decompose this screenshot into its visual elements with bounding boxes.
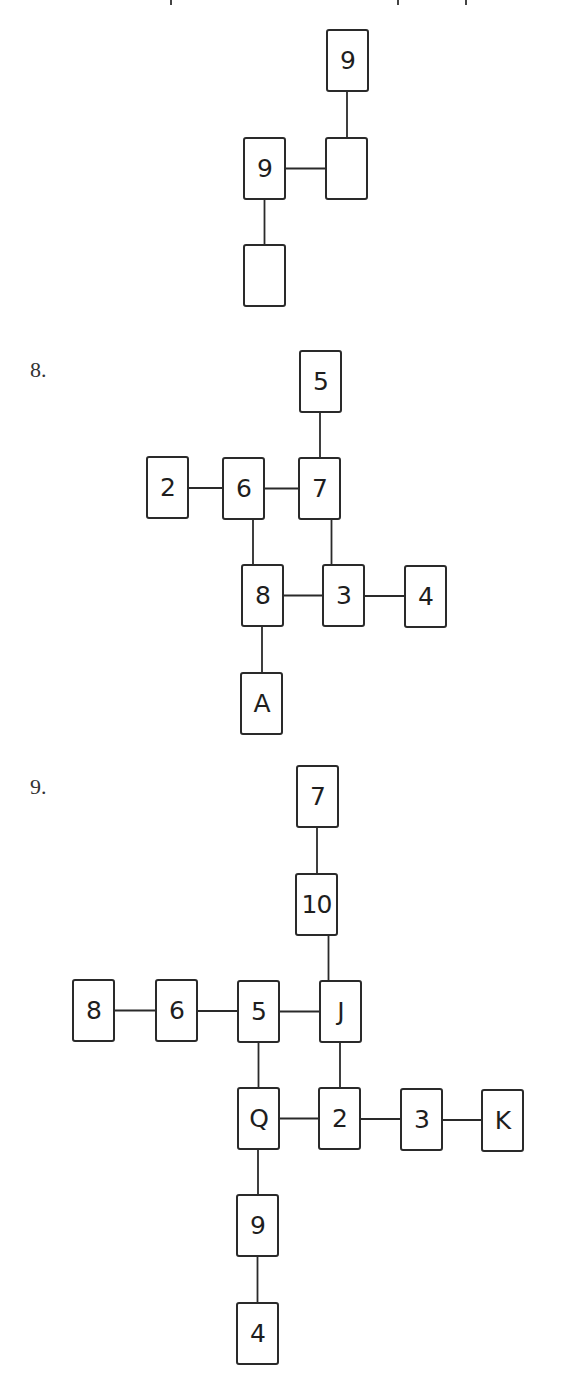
card-2: 2 bbox=[146, 456, 189, 519]
card-blank bbox=[325, 137, 368, 200]
card-value: 4 bbox=[418, 582, 433, 611]
card-5: 5 bbox=[237, 980, 280, 1043]
card-2: 2 bbox=[318, 1087, 361, 1150]
card-value: 5 bbox=[251, 997, 266, 1026]
card-10: 10 bbox=[295, 873, 338, 936]
card-j: J bbox=[319, 980, 362, 1043]
question-number: 8. bbox=[30, 357, 47, 383]
card-8: 8 bbox=[72, 979, 115, 1042]
card-a: A bbox=[240, 672, 283, 735]
card-6: 6 bbox=[222, 457, 265, 520]
card-value: 9 bbox=[250, 1211, 265, 1240]
card-6: 6 bbox=[155, 979, 198, 1042]
card-4: 4 bbox=[236, 1302, 279, 1365]
card-value: 2 bbox=[160, 473, 175, 502]
card-value: 9 bbox=[257, 154, 272, 183]
card-value: 3 bbox=[414, 1105, 429, 1134]
question-number: 9. bbox=[30, 774, 47, 800]
card-k: K bbox=[481, 1089, 524, 1152]
card-value: K bbox=[495, 1106, 510, 1135]
card-9: 9 bbox=[236, 1194, 279, 1257]
card-value: 7 bbox=[312, 474, 327, 503]
card-value: 5 bbox=[313, 367, 328, 396]
card-q: Q bbox=[237, 1087, 280, 1150]
card-3: 3 bbox=[400, 1088, 443, 1151]
card-value: 10 bbox=[302, 890, 332, 919]
card-4: 4 bbox=[404, 565, 447, 628]
card-9: 9 bbox=[243, 137, 286, 200]
card-3: 3 bbox=[322, 564, 365, 627]
card-value: 6 bbox=[236, 474, 251, 503]
card-value: J bbox=[337, 997, 343, 1026]
card-value: 8 bbox=[86, 996, 101, 1025]
card-value: 4 bbox=[250, 1319, 265, 1348]
card-value: Q bbox=[249, 1104, 268, 1133]
card-value: A bbox=[253, 689, 269, 718]
card-5: 5 bbox=[299, 350, 342, 413]
card-value: 7 bbox=[310, 782, 325, 811]
card-blank bbox=[243, 244, 286, 307]
card-value: 3 bbox=[336, 581, 351, 610]
card-value: 2 bbox=[332, 1104, 347, 1133]
card-value: 8 bbox=[255, 581, 270, 610]
card-9: 9 bbox=[326, 29, 369, 92]
card-value: 6 bbox=[169, 996, 184, 1025]
card-7: 7 bbox=[298, 457, 341, 520]
connector-lines bbox=[0, 0, 566, 1387]
card-7: 7 bbox=[296, 765, 339, 828]
card-value: 9 bbox=[340, 46, 355, 75]
card-8: 8 bbox=[241, 564, 284, 627]
